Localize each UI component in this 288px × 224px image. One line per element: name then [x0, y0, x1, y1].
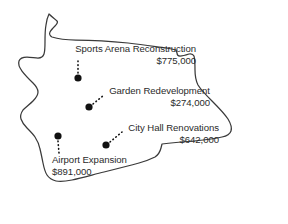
project-name-sports-arena: Sports Arena Reconstruction: [62, 43, 196, 55]
map-figure: Sports Arena Reconstruction $775,000 Gar…: [0, 0, 288, 224]
project-amount-sports-arena: $775,000: [62, 55, 196, 67]
marker-airport-expansion[interactable]: [54, 132, 61, 139]
project-amount-airport-expansion: $891,000: [52, 166, 162, 178]
marker-sports-arena[interactable]: [74, 74, 81, 81]
project-label-sports-arena: Sports Arena Reconstruction $775,000: [62, 43, 196, 68]
project-name-airport-expansion: Airport Expansion: [52, 154, 162, 166]
project-label-garden-redevelopment: Garden Redevelopment $274,000: [100, 85, 210, 110]
marker-city-hall[interactable]: [102, 141, 109, 148]
project-amount-city-hall: $642,000: [118, 134, 219, 146]
project-name-city-hall: City Hall Renovations: [118, 122, 219, 134]
project-name-garden-redevelopment: Garden Redevelopment: [100, 85, 210, 97]
marker-garden-redevelopment[interactable]: [85, 103, 92, 110]
project-amount-garden-redevelopment: $274,000: [100, 97, 210, 109]
map-canvas: [0, 0, 288, 224]
project-label-city-hall: City Hall Renovations $642,000: [118, 122, 219, 147]
project-label-airport-expansion: Airport Expansion $891,000: [52, 154, 162, 179]
